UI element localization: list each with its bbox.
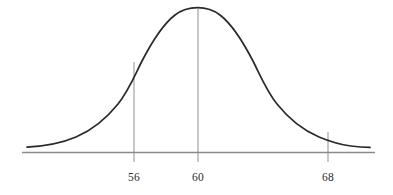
bell-curve-chart: 56 60 68 (0, 0, 393, 195)
bell-curve-figure: 56 60 68 (0, 0, 393, 195)
x-tick-label-68: 68 (322, 171, 334, 183)
x-tick-label-60: 60 (192, 171, 204, 183)
x-tick-label-56: 56 (128, 171, 140, 183)
